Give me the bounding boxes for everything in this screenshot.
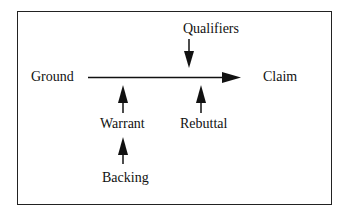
qualifiers-label: Qualifiers [183,21,239,37]
main-arrow-icon [88,72,241,83]
arrows-layer [0,0,351,218]
ground-label: Ground [31,69,74,85]
claim-label: Claim [263,69,297,85]
backing-label: Backing [102,170,149,186]
rebuttal-label: Rebuttal [180,116,227,132]
warrant-label: Warrant [100,116,145,132]
qualifiers-arrow-icon [184,39,194,68]
warrant-arrow-icon [118,85,128,113]
rebuttal-arrow-icon [196,85,206,113]
backing-arrow-icon [118,137,128,164]
